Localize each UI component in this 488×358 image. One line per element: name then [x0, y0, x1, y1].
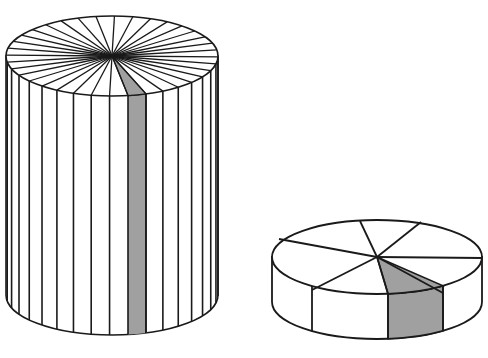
- short-cylinder: [272, 220, 482, 339]
- pie-sector-line: [377, 257, 482, 258]
- figure: [0, 0, 488, 358]
- cylinder-body: [6, 56, 218, 335]
- tall-cylinder: [6, 16, 218, 335]
- cylinders-diagram: [0, 0, 488, 358]
- shaded-stripe: [128, 94, 146, 335]
